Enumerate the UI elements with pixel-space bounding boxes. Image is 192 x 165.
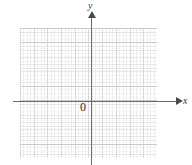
x-axis-label: x (183, 96, 187, 106)
y-axis-label: y (88, 1, 92, 11)
coordinate-plane-figure: y x 0 (0, 0, 192, 165)
grid-dot-overlay (20, 28, 157, 158)
y-axis-line (91, 16, 92, 165)
x-axis-arrow-icon (176, 97, 183, 105)
x-axis-line (13, 101, 178, 102)
origin-label: 0 (80, 101, 86, 113)
y-axis-arrow-icon (88, 11, 96, 18)
graph-grid (20, 28, 157, 158)
